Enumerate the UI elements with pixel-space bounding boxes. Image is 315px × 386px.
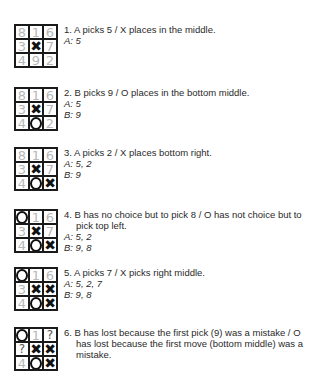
- step-text: 2. B picks 9 / O places in the bottom mi…: [64, 87, 314, 120]
- tic-tac-toe-board: 163✖74✖: [14, 209, 58, 253]
- o-mark-icon: [30, 239, 42, 251]
- magic-square-number: 7: [44, 225, 56, 237]
- o-ring: [30, 117, 42, 129]
- x-mark-icon: ✖: [44, 283, 56, 295]
- magic-square-number: 1: [30, 329, 42, 341]
- x-mark-icon: ✖: [44, 343, 56, 355]
- magic-square-number: 7: [44, 40, 56, 52]
- tic-tac-toe-board: 8163✖74✖: [14, 147, 58, 191]
- question-mark-cell: ?: [44, 329, 56, 341]
- o-mark-icon: [16, 329, 28, 341]
- magic-square-number: 4: [16, 177, 28, 189]
- player-a-picks: A: 5, 2: [64, 158, 314, 169]
- magic-square-number: 6: [44, 89, 56, 101]
- magic-square-number: 1: [30, 149, 42, 161]
- step-description: 4. B has no choice but to pick 8 / O has…: [64, 209, 314, 231]
- o-mark-icon: [16, 211, 28, 223]
- x-mark-icon: ✖: [30, 40, 42, 52]
- o-mark-icon: [30, 177, 42, 189]
- step-text: 6. B has lost because the first pick (9)…: [64, 327, 314, 360]
- tic-tac-toe-board: 1??✖✖4✖: [14, 327, 58, 371]
- x-mark-icon: ✖: [44, 239, 56, 251]
- o-mark-icon: [16, 269, 28, 281]
- x-mark-icon: ✖: [44, 297, 56, 309]
- step-description: 3. A picks 2 / X places bottom right.: [64, 147, 314, 158]
- magic-square-number: 4: [16, 54, 28, 66]
- magic-square-number: 6: [44, 269, 56, 281]
- x-mark-icon: ✖: [44, 177, 56, 189]
- magic-square-number: 8: [16, 26, 28, 38]
- o-ring: [30, 239, 42, 251]
- magic-square-number: 2: [44, 117, 56, 129]
- magic-square-number: 8: [16, 149, 28, 161]
- step-description: 6. B has lost because the first pick (9)…: [64, 327, 314, 360]
- step-description: 1. A picks 5 / X places in the middle.: [64, 24, 314, 35]
- magic-square-number: 3: [16, 225, 28, 237]
- magic-square-number: 3: [16, 40, 28, 52]
- magic-square-number: 4: [16, 297, 28, 309]
- x-mark-icon: ✖: [30, 225, 42, 237]
- tic-tac-toe-board: 8163✖742: [14, 87, 58, 131]
- player-a-picks: A: 5, 2, 7: [64, 278, 314, 289]
- player-b-picks: B: 9: [64, 169, 314, 180]
- step-description: 2. B picks 9 / O places in the bottom mi…: [64, 87, 314, 98]
- magic-square-number: 1: [30, 211, 42, 223]
- tic-tac-toe-board: 8163✖7492: [14, 24, 58, 68]
- player-a-picks: A: 5: [64, 98, 314, 109]
- o-ring: [30, 297, 42, 309]
- magic-square-number: 1: [30, 26, 42, 38]
- player-b-picks: B: 9, 8: [64, 289, 314, 300]
- o-ring: [16, 211, 28, 223]
- step-text: 1. A picks 5 / X places in the middle.A:…: [64, 24, 314, 46]
- magic-square-number: 7: [44, 163, 56, 175]
- magic-square-number: 1: [30, 269, 42, 281]
- player-b-picks: B: 9: [64, 109, 314, 120]
- magic-square-number: 7: [44, 103, 56, 115]
- magic-square-number: 4: [16, 117, 28, 129]
- x-mark-icon: ✖: [30, 103, 42, 115]
- o-ring: [16, 329, 28, 341]
- magic-square-number: 6: [44, 211, 56, 223]
- o-mark-icon: [30, 357, 42, 369]
- o-mark-icon: [30, 297, 42, 309]
- o-ring: [30, 357, 42, 369]
- magic-square-number: 9: [30, 54, 42, 66]
- o-mark-icon: [30, 117, 42, 129]
- magic-square-number: 2: [44, 54, 56, 66]
- magic-square-number: 3: [16, 163, 28, 175]
- magic-square-number: 3: [16, 283, 28, 295]
- magic-square-number: 1: [30, 89, 42, 101]
- player-a-picks: A: 5: [64, 35, 314, 46]
- player-b-picks: B: 9, 8: [64, 242, 314, 253]
- magic-square-number: 6: [44, 149, 56, 161]
- step-description: 5. A picks 7 / X picks right middle.: [64, 267, 314, 278]
- x-mark-icon: ✖: [30, 283, 42, 295]
- magic-square-number: 4: [16, 239, 28, 251]
- tic-tac-toe-board: 163✖✖4✖: [14, 267, 58, 311]
- o-ring: [16, 269, 28, 281]
- x-mark-icon: ✖: [44, 357, 56, 369]
- magic-square-number: 3: [16, 103, 28, 115]
- question-mark-cell: ?: [16, 343, 28, 355]
- magic-square-number: 6: [44, 26, 56, 38]
- step-text: 4. B has no choice but to pick 8 / O has…: [64, 209, 314, 253]
- o-ring: [30, 177, 42, 189]
- step-text: 5. A picks 7 / X picks right middle.A: 5…: [64, 267, 314, 300]
- x-mark-icon: ✖: [30, 163, 42, 175]
- magic-square-number: 4: [16, 357, 28, 369]
- step-text: 3. A picks 2 / X places bottom right.A: …: [64, 147, 314, 180]
- x-mark-icon: ✖: [30, 343, 42, 355]
- player-a-picks: A: 5, 2: [64, 231, 314, 242]
- magic-square-number: 8: [16, 89, 28, 101]
